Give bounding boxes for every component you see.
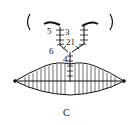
lower-lip — [15, 81, 124, 95]
label-4: 4 — [63, 55, 68, 64]
right-bracket — [110, 14, 113, 30]
figure-caption: C — [63, 108, 70, 118]
label-5: 5 — [47, 27, 52, 36]
label-21: 21 — [66, 38, 75, 47]
left-bracket — [28, 14, 31, 30]
label-6: 6 — [49, 47, 54, 56]
left-nostril — [44, 22, 60, 25]
label-3: 3 — [65, 28, 70, 37]
right-nostril — [82, 22, 98, 26]
